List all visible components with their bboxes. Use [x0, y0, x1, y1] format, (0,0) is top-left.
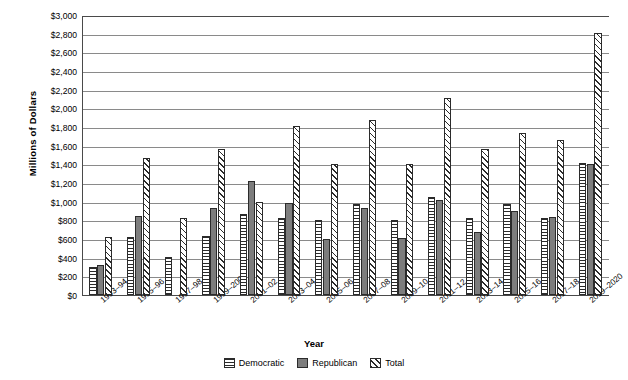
- y-tick-label: $1,600: [25, 143, 77, 152]
- y-tick-label: $2,400: [25, 68, 77, 77]
- y-tick-label: $1,400: [25, 161, 77, 170]
- y-tick-label: $2,800: [25, 31, 77, 40]
- bar-democratic: [278, 218, 285, 295]
- y-tick-label: $2,000: [25, 105, 77, 114]
- legend: DemocraticRepublicanTotal: [0, 358, 628, 368]
- bar-group: [83, 16, 121, 295]
- bar-total: [444, 98, 451, 295]
- y-tick-label: $2,200: [25, 87, 77, 96]
- bar-democratic: [541, 218, 548, 295]
- y-tick-label: $0: [25, 292, 77, 301]
- legend-swatch-icon: [370, 358, 381, 368]
- bar-democratic: [89, 267, 96, 295]
- legend-label: Republican: [312, 358, 357, 368]
- legend-item-democratic[interactable]: Democratic: [224, 358, 285, 368]
- bar-total: [105, 237, 112, 295]
- bar-republican: [511, 211, 518, 295]
- bar-total: [143, 158, 150, 295]
- legend-item-republican[interactable]: Republican: [297, 358, 357, 368]
- bar-republican: [361, 208, 368, 295]
- bar-democratic: [165, 257, 172, 295]
- bar-republican: [436, 200, 443, 295]
- bar-republican: [587, 164, 594, 295]
- bar-republican: [323, 239, 330, 295]
- bar-democratic: [315, 220, 322, 295]
- bar-democratic: [391, 220, 398, 295]
- y-tick-label: $2,600: [25, 49, 77, 58]
- bar-democratic: [579, 163, 586, 295]
- y-tick-label: $1,200: [25, 180, 77, 189]
- bar-republican: [210, 208, 217, 295]
- bar-democratic: [202, 236, 209, 295]
- bar-total: [481, 149, 488, 295]
- bar-democratic: [127, 237, 134, 295]
- bar-republican: [398, 238, 405, 295]
- bar-republican: [97, 265, 104, 295]
- legend-label: Total: [385, 358, 404, 368]
- x-axis-title: Year: [0, 338, 628, 349]
- bar-democratic: [240, 214, 247, 295]
- bar-total: [369, 120, 376, 295]
- y-tick-label: $400: [25, 255, 77, 264]
- bar-total: [293, 126, 300, 295]
- y-tick-label: $1,000: [25, 199, 77, 208]
- bar-total: [256, 202, 263, 295]
- bar-republican: [474, 232, 481, 295]
- bar-republican: [248, 181, 255, 295]
- legend-item-total[interactable]: Total: [370, 358, 404, 368]
- y-tick-label: $600: [25, 236, 77, 245]
- bar-democratic: [503, 204, 510, 295]
- legend-swatch-icon: [224, 358, 235, 368]
- bar-democratic: [353, 204, 360, 295]
- bar-democratic: [466, 218, 473, 295]
- bar-democratic: [428, 197, 435, 295]
- legend-label: Democratic: [239, 358, 285, 368]
- bar-total: [594, 33, 601, 295]
- bar-total: [218, 149, 225, 295]
- bar-republican: [135, 216, 142, 295]
- bar-republican: [285, 203, 292, 295]
- bar-total: [180, 218, 187, 295]
- bar-total: [557, 140, 564, 295]
- bar-total: [331, 164, 338, 295]
- legend-swatch-icon: [297, 358, 308, 368]
- bar-republican: [549, 217, 556, 295]
- y-tick-label: $800: [25, 217, 77, 226]
- y-tick-label: $200: [25, 273, 77, 282]
- bar-total: [406, 164, 413, 295]
- y-tick-label: $1,800: [25, 124, 77, 133]
- bar-total: [519, 133, 526, 295]
- y-tick-label: $3,000: [25, 12, 77, 21]
- bar-chart: Millions of Dollars $3,000$2,800$2,600$2…: [0, 0, 628, 380]
